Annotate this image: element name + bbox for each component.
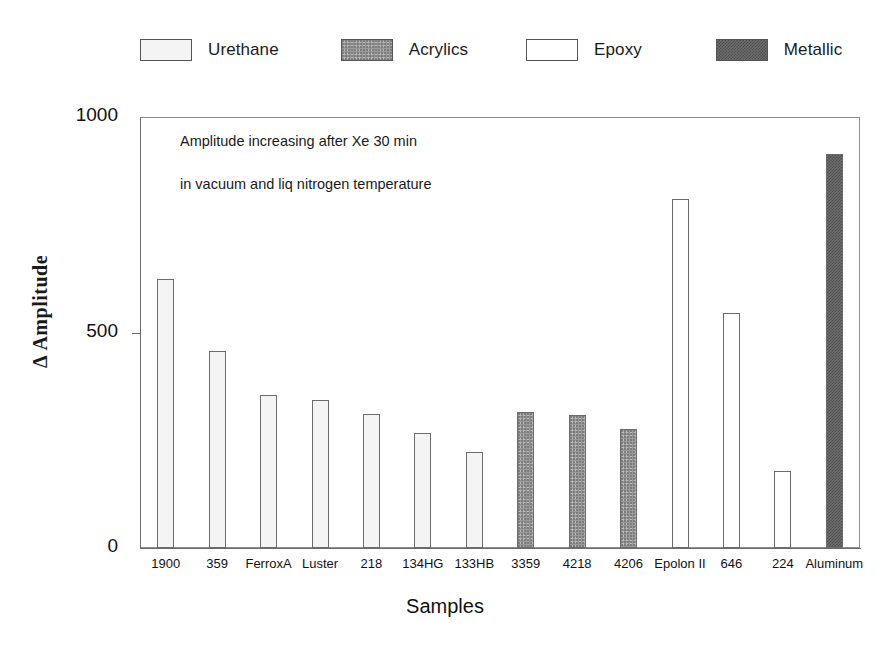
x-axis-tick-label: 133HB [454, 556, 494, 571]
x-axis-tick-label: 3359 [511, 556, 540, 571]
plot-annotation: Amplitude increasing after Xe 30 minin v… [180, 133, 620, 218]
y-axis-tick-label: 500 [48, 320, 118, 342]
legend-item-urethane: Urethane [140, 39, 279, 61]
x-axis-tick-label: Luster [302, 556, 338, 571]
bar [312, 400, 329, 548]
x-axis-title: Samples [0, 595, 890, 618]
x-axis-tick-label: 4218 [563, 556, 592, 571]
bar [260, 395, 277, 548]
bar [363, 414, 380, 548]
bar [209, 351, 226, 548]
annotation-line-1: Amplitude increasing after Xe 30 min [180, 133, 620, 150]
x-axis-tick-label: 646 [721, 556, 743, 571]
bar [414, 433, 431, 549]
legend-swatch-urethane [140, 39, 192, 61]
bar [723, 313, 740, 548]
x-axis-tick-label: 4206 [614, 556, 643, 571]
x-axis-line [140, 548, 861, 549]
x-axis-tick-label: 359 [206, 556, 228, 571]
bar [517, 412, 534, 548]
x-axis-tick-label: 134HG [402, 556, 443, 571]
x-axis-tick-labels: 1900359FerroxALuster218134HG133HB3359421… [140, 556, 862, 580]
legend-label-epoxy: Epoxy [594, 40, 642, 60]
legend-item-metallic: Metallic [716, 39, 842, 61]
x-axis-tick-label: 218 [361, 556, 383, 571]
x-axis-tick-label: 1900 [151, 556, 180, 571]
y-axis-tick-label: 0 [48, 535, 118, 557]
legend-label-urethane: Urethane [208, 40, 279, 60]
annotation-line-2: in vacuum and liq nitrogen temperature [180, 176, 620, 193]
legend-swatch-epoxy [526, 39, 578, 61]
legend-label-metallic: Metallic [784, 40, 842, 60]
legend-item-acrylics: Acrylics [341, 39, 468, 61]
x-axis-tick-label: Aluminum [805, 556, 863, 571]
legend-label-acrylics: Acrylics [409, 40, 468, 60]
bar [466, 452, 483, 548]
legend-swatch-acrylics [341, 39, 393, 61]
legend-swatch-metallic [716, 39, 768, 61]
bar [620, 429, 637, 548]
y-axis-tick-label: 1000 [48, 104, 118, 126]
bar [774, 471, 791, 548]
y-axis-tick [132, 333, 141, 334]
x-axis-tick-label: Epolon II [654, 556, 705, 571]
chart-figure: UrethaneAcrylicsEpoxyMetallic 05001000 Δ… [0, 0, 890, 649]
bar [672, 199, 689, 548]
bar [826, 154, 843, 548]
x-axis-tick-label: FerroxA [245, 556, 291, 571]
bar [157, 279, 174, 548]
x-axis-tick-label: 224 [772, 556, 794, 571]
legend-item-epoxy: Epoxy [526, 39, 642, 61]
bar [569, 415, 586, 548]
chart-legend: UrethaneAcrylicsEpoxyMetallic [140, 33, 860, 67]
y-axis-title: Δ Amplitude [29, 202, 52, 422]
